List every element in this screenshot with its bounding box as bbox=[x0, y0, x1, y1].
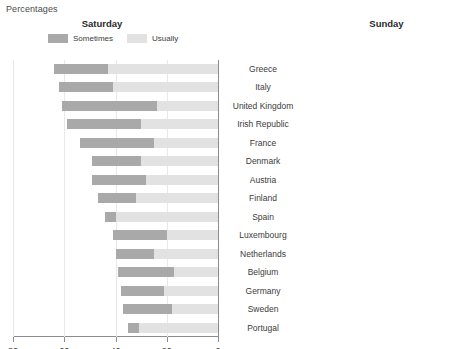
bar-segment-usually bbox=[157, 101, 219, 111]
axis-tick bbox=[64, 337, 65, 342]
chart-panel-sunday: Sunday Usually Sometimes 0204060 bbox=[288, 14, 469, 349]
bar-segment-usually bbox=[154, 249, 218, 259]
axis-tick bbox=[167, 337, 168, 342]
bar-segment-usually bbox=[108, 64, 218, 74]
legend-item-usually: Usually bbox=[127, 34, 178, 43]
axis-tick bbox=[218, 337, 219, 342]
bar-segment-usually bbox=[136, 193, 218, 203]
legend-swatch-usually-icon bbox=[127, 34, 147, 43]
bar-row bbox=[13, 319, 218, 337]
bar-row bbox=[13, 115, 218, 133]
plot-area-saturday: 806040200 bbox=[13, 60, 218, 337]
chart-panel-saturday: Saturday Sometimes Usually 806040200 bbox=[0, 14, 232, 349]
bar-segment-sometimes bbox=[121, 286, 165, 296]
bar-segment-sometimes bbox=[92, 156, 141, 166]
legend-label-usually: Usually bbox=[152, 34, 178, 43]
bar-segment-sometimes bbox=[59, 82, 113, 92]
bar-segment-sometimes bbox=[116, 249, 154, 259]
bar-segment-sometimes bbox=[118, 267, 174, 277]
bar-row bbox=[13, 60, 218, 78]
bar-row bbox=[13, 152, 218, 170]
bar-segment-usually bbox=[139, 323, 218, 333]
bar-segment-usually bbox=[172, 304, 218, 314]
bar-row bbox=[13, 245, 218, 263]
bar-segment-usually bbox=[154, 138, 218, 148]
axis-tick bbox=[116, 337, 117, 342]
bar-row bbox=[13, 226, 218, 244]
bar-segment-sometimes bbox=[62, 101, 157, 111]
bar-row bbox=[13, 97, 218, 115]
bar-segment-sometimes bbox=[67, 119, 141, 129]
page-title: Percentages bbox=[6, 4, 58, 14]
legend-saturday: Sometimes Usually bbox=[48, 34, 178, 43]
bar-segment-sometimes bbox=[113, 230, 167, 240]
y-axis-line-saturday bbox=[218, 60, 219, 337]
bar-row bbox=[13, 171, 218, 189]
legend-swatch-sometimes-icon bbox=[48, 34, 68, 43]
bar-row bbox=[13, 282, 218, 300]
legend-label-sometimes: Sometimes bbox=[73, 34, 113, 43]
bar-segment-sometimes bbox=[80, 138, 154, 148]
bar-segment-sometimes bbox=[98, 193, 136, 203]
bar-row bbox=[13, 189, 218, 207]
bar-segment-sometimes bbox=[128, 323, 138, 333]
panel-title-sunday: Sunday bbox=[296, 18, 469, 29]
bar-row bbox=[13, 300, 218, 318]
bar-segment-usually bbox=[167, 230, 218, 240]
bar-segment-usually bbox=[116, 212, 219, 222]
bar-segment-sometimes bbox=[105, 212, 115, 222]
bar-segment-usually bbox=[164, 286, 218, 296]
bar-row bbox=[13, 263, 218, 281]
bar-segment-sometimes bbox=[123, 304, 172, 314]
bar-segment-usually bbox=[146, 175, 218, 185]
bar-segment-usually bbox=[141, 119, 218, 129]
axis-tick bbox=[13, 337, 14, 342]
legend-item-sometimes: Sometimes bbox=[48, 34, 113, 43]
panel-title-saturday: Saturday bbox=[0, 18, 218, 29]
bar-segment-usually bbox=[113, 82, 218, 92]
bar-segment-usually bbox=[174, 267, 218, 277]
bar-row bbox=[13, 208, 218, 226]
bar-segment-usually bbox=[141, 156, 218, 166]
bar-segment-sometimes bbox=[92, 175, 146, 185]
bar-row bbox=[13, 134, 218, 152]
bar-segment-sometimes bbox=[54, 64, 108, 74]
bar-row bbox=[13, 78, 218, 96]
